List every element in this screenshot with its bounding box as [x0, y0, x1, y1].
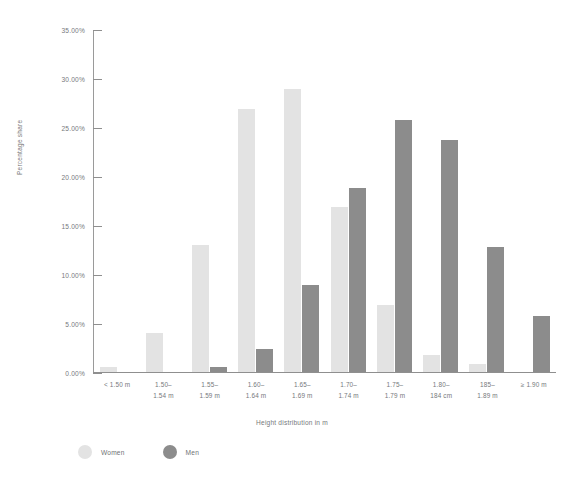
- x-axis-category-labels: < 1.50 m1.50– 1.54 m1.55– 1.59 m1.60– 1.…: [94, 380, 557, 401]
- x-axis-category-label: 1.50– 1.54 m: [140, 380, 186, 401]
- bar-group: [325, 30, 371, 372]
- x-axis-category-label: 1.70– 1.74 m: [325, 380, 371, 401]
- bar-men[interactable]: [487, 247, 504, 371]
- bar-women[interactable]: [469, 364, 486, 372]
- y-axis-tick-label: 35.00%: [61, 27, 85, 34]
- bar-men[interactable]: [256, 349, 273, 372]
- bar-men[interactable]: [349, 188, 366, 371]
- bar-men[interactable]: [441, 140, 458, 371]
- y-axis-tick-label: 5.00%: [65, 321, 85, 328]
- bar-women[interactable]: [423, 355, 440, 372]
- x-axis-category-label: 1.55– 1.59 m: [187, 380, 233, 401]
- legend-item-men[interactable]: Men: [163, 445, 199, 459]
- bar-men[interactable]: [395, 120, 412, 372]
- y-axis-tick-label: 10.00%: [61, 272, 85, 279]
- bar-group: [464, 30, 510, 372]
- legend-swatch-circle-icon: [78, 445, 92, 459]
- bar-groups: [94, 30, 556, 372]
- bar-women[interactable]: [284, 89, 301, 371]
- bar-chart: Percentage share 0.00%5.00%10.00%15.00%2…: [0, 0, 584, 482]
- y-axis-title-label: Percentage share: [16, 120, 23, 175]
- bar-group: [140, 30, 186, 372]
- chart-legend: WomenMen: [78, 445, 199, 459]
- bar-group: [371, 30, 417, 372]
- x-axis-category-label: < 1.50 m: [94, 380, 140, 401]
- bar-women[interactable]: [377, 305, 394, 372]
- bar-group: [233, 30, 279, 372]
- bar-group: [94, 30, 140, 372]
- bar-women[interactable]: [238, 109, 255, 372]
- y-axis-tick: 0.00%: [93, 373, 102, 374]
- bar-group: [510, 30, 556, 372]
- bar-group: [417, 30, 463, 372]
- x-axis-line: [93, 372, 556, 374]
- bar-men[interactable]: [302, 285, 319, 371]
- bar-women[interactable]: [331, 207, 348, 372]
- y-axis-tick-label: 30.00%: [61, 76, 85, 83]
- y-axis-tick-label: 15.00%: [61, 223, 85, 230]
- bar-men[interactable]: [210, 367, 227, 372]
- x-axis-category-label: ≥ 1.90 m: [511, 380, 557, 401]
- x-axis-title-label: Height distribution in m: [256, 419, 328, 426]
- bar-group: [279, 30, 325, 372]
- legend-swatch-circle-icon: [163, 445, 177, 459]
- legend-label: Men: [186, 449, 199, 456]
- x-axis-category-label: 1.75– 1.79 m: [372, 380, 418, 401]
- y-axis-tick-label: 20.00%: [61, 174, 85, 181]
- y-axis-tick-label: 0.00%: [65, 370, 85, 377]
- x-axis-category-label: 1.80– 184 cm: [418, 380, 464, 401]
- x-axis-title: Height distribution in m: [0, 419, 584, 426]
- y-axis-tick-label: 25.00%: [61, 125, 85, 132]
- x-axis-category-label: 1.60– 1.64 m: [233, 380, 279, 401]
- legend-item-women[interactable]: Women: [78, 445, 125, 459]
- plot-area: 0.00%5.00%10.00%15.00%20.00%25.00%30.00%…: [93, 30, 556, 373]
- bar-women[interactable]: [146, 333, 163, 371]
- bar-men[interactable]: [533, 316, 550, 372]
- legend-label: Women: [101, 449, 125, 456]
- bar-women[interactable]: [100, 367, 117, 372]
- x-axis-category-label: 185– 1.89 m: [464, 380, 510, 401]
- x-axis-category-label: 1.65– 1.69 m: [279, 380, 325, 401]
- bar-women[interactable]: [192, 245, 209, 371]
- bar-group: [186, 30, 232, 372]
- y-axis-title: Percentage share: [16, 65, 23, 175]
